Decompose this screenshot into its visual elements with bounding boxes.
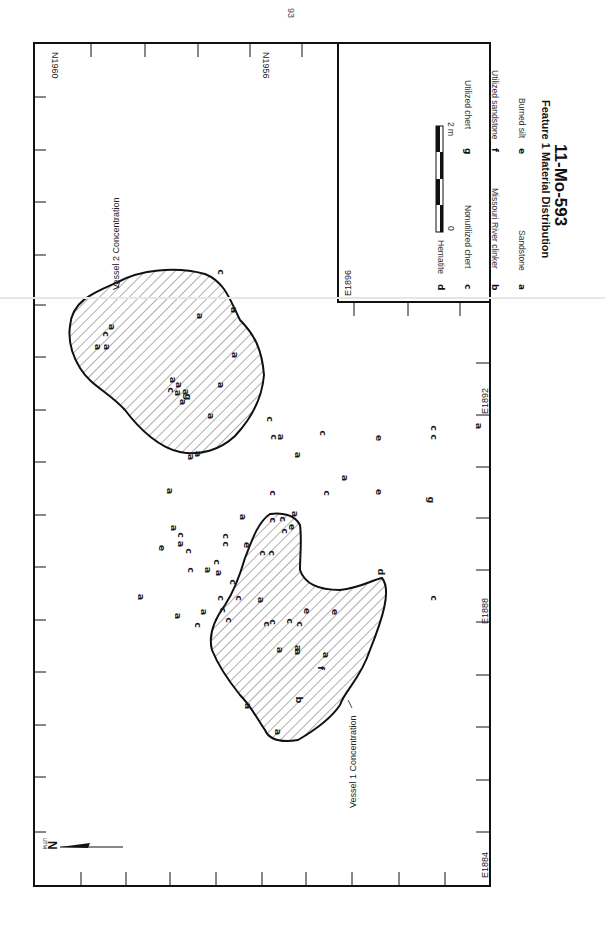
material-point-c: c: [234, 595, 245, 601]
material-point-e: e: [330, 609, 341, 615]
material-point-a: a: [107, 324, 118, 330]
material-point-e: e: [374, 435, 385, 441]
left-ticks: [34, 97, 46, 832]
material-point-e: e: [287, 524, 298, 530]
material-point-e: e: [374, 489, 385, 495]
material-point-c: c: [228, 579, 239, 585]
vessel-2-label: Vessel 2 Concentration: [111, 197, 121, 290]
material-point-c: c: [295, 621, 306, 627]
scale-start: 0: [446, 226, 456, 231]
map-subtitle: Feature 1 Material Distribution: [540, 100, 552, 259]
material-point-a: a: [195, 313, 206, 319]
svg-text:Vessel 1 Concentration: Vessel 1 Concentration: [348, 715, 358, 808]
material-point-a: a: [273, 729, 284, 735]
material-point-e: e: [157, 545, 168, 551]
material-point-c: c: [268, 517, 279, 523]
material-point-a: a: [193, 451, 204, 457]
legend-label: Utilized chert: [463, 80, 473, 130]
material-point-a: a: [168, 377, 179, 383]
legend-label: Hematite: [436, 240, 446, 274]
legend-label: Sandstone: [517, 230, 527, 271]
right-ticks: [476, 363, 490, 832]
legend-key: a: [517, 284, 527, 290]
material-point-d: d: [376, 569, 387, 576]
scale-end: 2 m: [446, 122, 456, 136]
material-point-c: c: [429, 595, 440, 601]
material-point-a: a: [216, 382, 227, 388]
material-point-a: a: [276, 434, 287, 440]
material-point-c: c: [216, 269, 227, 275]
material-point-c: c: [278, 516, 289, 522]
material-point-c: c: [267, 550, 278, 556]
legend-key: g: [463, 148, 473, 154]
material-point-c: c: [184, 548, 195, 554]
material-point-c: c: [221, 533, 232, 539]
material-point-c: c: [218, 607, 229, 613]
utm-label: UTM: [42, 838, 48, 849]
material-point-c: c: [193, 622, 204, 628]
legend-key: c: [463, 284, 473, 289]
material-point-a: a: [230, 352, 241, 358]
material-point-c: c: [186, 567, 197, 573]
material-point-a: a: [321, 652, 332, 658]
material-point-b: b: [294, 697, 305, 704]
material-point-c: c: [322, 490, 333, 496]
material-point-c: c: [176, 532, 187, 538]
material-point-a: a: [199, 609, 210, 615]
material-point-c: c: [216, 595, 227, 601]
legend-key: d: [436, 284, 446, 290]
material-point-a: a: [102, 344, 113, 350]
material-point-a: a: [229, 307, 240, 313]
legend-key: b: [490, 284, 500, 291]
easting-label: E1896: [343, 270, 353, 296]
svg-text:Vessel 2 Concentration: Vessel 2 Concentration: [111, 197, 121, 290]
easting-label: E1892: [480, 388, 490, 414]
material-point-c: c: [224, 617, 235, 623]
northing-label: N1956: [261, 52, 271, 79]
material-point-a: a: [165, 488, 176, 494]
material-point-c: c: [268, 490, 279, 496]
material-point-a: a: [275, 647, 286, 653]
material-point-a: a: [256, 597, 267, 603]
legend-label: Burned silt: [517, 98, 527, 139]
legend-label: Utilized sandstone: [490, 70, 500, 140]
northing-label: N1960: [50, 52, 60, 79]
material-point-c: c: [285, 618, 296, 624]
material-point-a: a: [293, 452, 304, 458]
site-map: 93 N1960 N19: [0, 0, 605, 926]
material-point-a: a: [176, 541, 187, 547]
legend-label: Nonutilized chert: [463, 205, 473, 269]
north-arrow-icon: N UTM: [42, 838, 123, 850]
material-point-c: c: [429, 425, 440, 431]
legend-label: Missouri River clinker: [490, 188, 500, 269]
page-number: 93: [286, 8, 296, 18]
vessel-1-label: Vessel 1 Concentration: [348, 700, 358, 808]
material-point-c: c: [429, 434, 440, 440]
material-point-a: a: [293, 649, 304, 655]
material-point-e: e: [302, 608, 313, 614]
legend-ticks: [354, 302, 460, 316]
material-point-a: a: [203, 567, 214, 573]
material-point-a: a: [173, 613, 184, 619]
material-point-a: a: [214, 570, 225, 576]
legend-key: e: [517, 148, 527, 154]
bottom-ticks: [81, 872, 445, 886]
material-point-c: c: [101, 331, 112, 337]
easting-label: E1888: [480, 598, 490, 624]
material-point-a: a: [340, 475, 351, 481]
material-point-c: c: [221, 541, 232, 547]
material-point-c: c: [318, 430, 329, 436]
material-point-a: a: [243, 703, 254, 709]
easting-label: E1884: [480, 852, 490, 878]
map-title: 11-Mo-593: [551, 144, 570, 226]
material-point-a: a: [474, 423, 485, 429]
material-point-a: a: [169, 525, 180, 531]
legend-key: f: [490, 148, 500, 152]
material-point-e: e: [242, 542, 253, 548]
material-point-a: a: [290, 511, 301, 517]
vessel-1-concentration-area: [211, 513, 386, 741]
material-point-a: a: [238, 514, 249, 520]
material-point-c: c: [265, 416, 276, 422]
material-point-c: c: [262, 621, 273, 627]
material-point-a: a: [206, 413, 217, 419]
